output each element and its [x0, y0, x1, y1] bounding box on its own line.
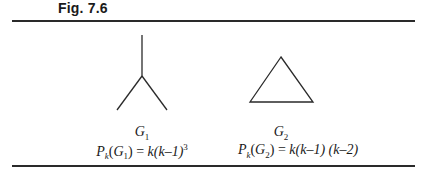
- graph-g2-triangle: [250, 57, 313, 102]
- bottom-rule: [12, 165, 415, 167]
- formula-g2: Pk(G2) = k(k–1) (k–2): [238, 142, 358, 160]
- g1-edge-right: [142, 76, 167, 110]
- g1-edge-left: [117, 76, 142, 110]
- g2-triangle: [250, 57, 313, 102]
- graph-drawings: [0, 0, 430, 174]
- caption-g1: G1: [135, 124, 150, 142]
- formula-g1: Pk(G1) = k(k–1)3: [96, 142, 188, 161]
- graph-g1-claw: [117, 35, 167, 110]
- caption-g2: G2: [274, 124, 289, 142]
